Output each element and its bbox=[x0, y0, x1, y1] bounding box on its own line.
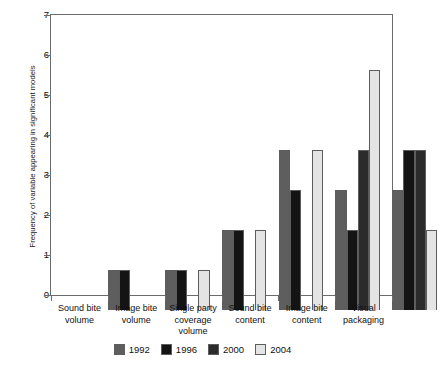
x-category-label: Visualpackaging bbox=[335, 303, 392, 326]
x-tick-mark bbox=[108, 296, 109, 301]
bar-group bbox=[335, 30, 380, 310]
legend-swatch-icon bbox=[255, 344, 266, 355]
x-category-label: Single partycoveragevolume bbox=[165, 303, 222, 338]
bar-1992-6[interactable] bbox=[392, 190, 403, 310]
bar-2004-5[interactable] bbox=[369, 70, 380, 310]
x-tick-mark bbox=[51, 296, 52, 301]
bar-2004-6[interactable] bbox=[426, 230, 437, 310]
legend-item-2000[interactable]: 2000 bbox=[208, 344, 244, 355]
bar-1996-3[interactable] bbox=[233, 230, 244, 310]
legend-swatch-icon bbox=[208, 344, 219, 355]
legend-swatch-icon bbox=[161, 344, 172, 355]
bar-group bbox=[392, 30, 437, 310]
bar-group bbox=[279, 30, 324, 310]
bar-2000-5[interactable] bbox=[358, 150, 369, 310]
x-tick-mark bbox=[165, 296, 166, 301]
bar-1996-6[interactable] bbox=[403, 150, 414, 310]
x-tick-mark bbox=[392, 296, 393, 301]
x-category-label: Sound bitevolume bbox=[51, 303, 108, 326]
legend-label: 2000 bbox=[223, 345, 244, 355]
bar-2000-6[interactable] bbox=[415, 150, 426, 310]
legend-item-2004[interactable]: 2004 bbox=[255, 344, 291, 355]
x-category-label: Image bitecontent bbox=[278, 303, 335, 326]
bar-1996-5[interactable] bbox=[347, 230, 358, 310]
x-category-label: Sound bitecontent bbox=[222, 303, 279, 326]
legend-swatch-icon bbox=[114, 344, 125, 355]
x-category-label: Image bitevolume bbox=[108, 303, 165, 326]
bar-1992-3[interactable] bbox=[222, 230, 233, 310]
bar-group bbox=[165, 30, 210, 310]
x-tick-mark bbox=[222, 296, 223, 301]
bar-2004-3[interactable] bbox=[255, 230, 266, 310]
bar-1992-5[interactable] bbox=[335, 190, 346, 310]
chart-legend: 1992199620002004 bbox=[0, 344, 405, 355]
bar-1996-4[interactable] bbox=[290, 190, 301, 310]
x-tick-mark bbox=[278, 296, 279, 301]
legend-label: 2004 bbox=[270, 345, 291, 355]
legend-label: 1996 bbox=[176, 345, 197, 355]
x-tick-mark bbox=[335, 296, 336, 301]
plot-area bbox=[50, 14, 393, 296]
bar-group bbox=[222, 30, 267, 310]
bar-group bbox=[108, 30, 153, 310]
bar-2004-4[interactable] bbox=[312, 150, 323, 310]
legend-item-1996[interactable]: 1996 bbox=[161, 344, 197, 355]
legend-label: 1992 bbox=[129, 345, 150, 355]
legend-item-1992[interactable]: 1992 bbox=[114, 344, 150, 355]
bar-1992-4[interactable] bbox=[279, 150, 290, 310]
bars-layer bbox=[102, 30, 441, 310]
